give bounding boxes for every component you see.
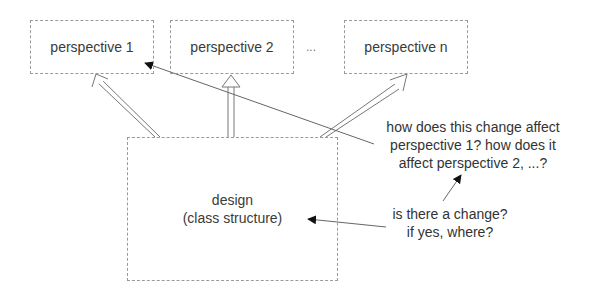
change-question-line-2: if yes, where? (375, 223, 525, 241)
change-question: is there a change? if yes, where? (375, 205, 525, 241)
hollow-arrow-to-perspective-2 (222, 75, 240, 137)
design-box: design (class structure) (127, 137, 338, 281)
perspective-2-label: perspective 2 (190, 39, 273, 55)
affect-question-line-3: affect perspective 2, ...? (373, 154, 573, 172)
perspective-1-box: perspective 1 (30, 20, 154, 74)
perspective-1-label: perspective 1 (50, 39, 133, 55)
perspective-2-box: perspective 2 (170, 20, 294, 74)
change-to-affect-arrow (443, 175, 461, 201)
design-label: design (183, 191, 283, 209)
perspective-n-label: perspective n (364, 39, 447, 55)
affect-question-line-1: how does this change affect (373, 118, 573, 136)
design-sublabel: (class structure) (183, 209, 283, 227)
perspective-n-box: perspective n (344, 20, 468, 74)
change-question-line-1: is there a change? (375, 205, 525, 223)
ellipsis: ... (306, 38, 316, 56)
affect-pointer-line (145, 63, 374, 144)
affect-question: how does this change affect perspective … (373, 118, 573, 172)
hollow-arrow-to-perspective-1 (92, 74, 160, 137)
affect-question-line-2: perspective 1? how does it (373, 136, 573, 154)
